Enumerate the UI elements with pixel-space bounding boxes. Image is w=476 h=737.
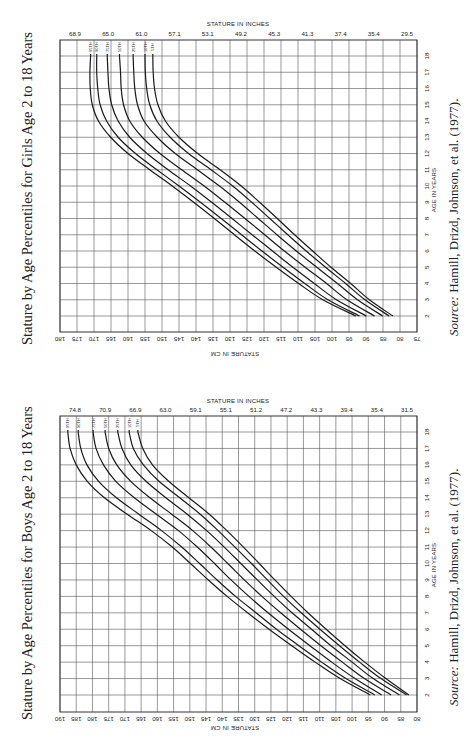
cm-tick-label: 120 <box>258 336 269 343</box>
cm-tick-label: 80 <box>413 716 420 723</box>
cm-tick-label: 170 <box>119 716 130 723</box>
cm-tick-label: 85 <box>379 336 386 343</box>
inch-tick-label: 41.3 <box>301 30 314 37</box>
cm-tick-label: 175 <box>103 716 114 723</box>
cm-tick-label: 110 <box>314 716 324 723</box>
boys-inch-ticks: 74.870.966.963.059.155.151.247.243.339.4… <box>69 406 414 413</box>
age-tick-label: 9 <box>423 200 430 204</box>
boys-bottom-axis-title: STATURE IN CM <box>211 725 259 731</box>
girls-stature-chart: STATURE IN INCHES 68.965.061.057.153.149… <box>54 21 437 357</box>
cm-tick-label: 105 <box>309 336 320 343</box>
inch-tick-label: 35.4 <box>368 30 381 37</box>
inch-tick-label: 65.0 <box>102 30 115 37</box>
inch-tick-label: 29.5 <box>401 30 414 37</box>
age-tick-label: 2 <box>423 693 430 697</box>
cm-tick-label: 140 <box>190 336 201 343</box>
percentile-label: 75TH <box>105 42 110 52</box>
cm-tick-label: 135 <box>233 716 244 723</box>
cm-tick-label: 150 <box>184 716 195 723</box>
percentile-label: 95TH <box>88 42 93 52</box>
age-tick-label: 9 <box>423 578 430 582</box>
inch-tick-label: 49.2 <box>235 30 248 37</box>
percentile-label: 5TH <box>150 43 155 51</box>
percentile-curve-75th <box>93 430 382 695</box>
age-tick-label: 11 <box>423 166 430 173</box>
cm-tick-label: 95 <box>345 336 352 343</box>
age-tick-label: 5 <box>423 265 430 269</box>
cm-tick-label: 125 <box>241 336 252 343</box>
girls-grid <box>60 40 417 332</box>
age-tick-label: 17 <box>423 444 430 451</box>
age-tick-label: 15 <box>423 477 430 484</box>
cm-tick-label: 160 <box>152 716 163 723</box>
cm-tick-label: 165 <box>105 336 116 343</box>
inch-tick-label: 39.4 <box>341 406 354 413</box>
age-tick-label: 14 <box>423 494 430 501</box>
cm-tick-label: 160 <box>122 336 133 343</box>
cm-tick-label: 90 <box>362 336 369 343</box>
cm-tick-label: 105 <box>330 716 341 723</box>
cm-tick-label: 75 <box>413 336 420 343</box>
cm-tick-label: 80 <box>396 336 403 343</box>
boys-age-axis-title: AGE IN YEARS <box>431 543 437 588</box>
age-tick-label: 4 <box>423 660 430 664</box>
age-tick-label: 3 <box>423 676 430 680</box>
age-tick-label: 7 <box>423 611 430 615</box>
girls-top-axis-title: STATURE IN INCHES <box>207 21 270 27</box>
age-tick-label: 5 <box>423 643 430 647</box>
cm-tick-label: 165 <box>135 716 146 723</box>
age-tick-label: 10 <box>423 560 430 567</box>
boys-top-axis-title: STATURE IN INCHES <box>207 398 270 404</box>
cm-tick-label: 90 <box>381 716 388 723</box>
inch-tick-label: 74.8 <box>69 406 82 413</box>
cm-tick-label: 145 <box>200 716 211 723</box>
cm-tick-label: 115 <box>298 716 308 723</box>
age-tick-label: 10 <box>423 182 430 189</box>
inch-tick-label: 70.9 <box>99 406 112 413</box>
age-tick-label: 13 <box>423 510 430 517</box>
inch-tick-label: 57.1 <box>169 30 182 37</box>
inch-tick-label: 35.4 <box>371 406 384 413</box>
cm-tick-label: 150 <box>156 336 167 343</box>
cm-tick-label: 130 <box>249 716 260 723</box>
percentile-curve-10th <box>145 54 389 316</box>
age-tick-label: 12 <box>423 527 430 534</box>
cm-tick-label: 100 <box>326 336 337 343</box>
cm-tick-label: 180 <box>54 336 65 343</box>
cm-tick-label: 125 <box>265 716 276 723</box>
cm-tick-label: 95 <box>364 716 371 723</box>
cm-tick-label: 130 <box>224 336 235 343</box>
cm-tick-label: 135 <box>207 336 218 343</box>
cm-tick-label: 155 <box>168 716 179 723</box>
inch-tick-label: 31.5 <box>401 406 414 413</box>
girls-cm-ticks: 1801751701651601551501451401351301251201… <box>54 336 420 343</box>
inch-tick-label: 43.3 <box>310 406 323 413</box>
cm-tick-label: 120 <box>281 716 292 723</box>
inch-tick-label: 63.0 <box>160 406 173 413</box>
age-tick-label: 15 <box>423 101 430 108</box>
age-tick-label: 18 <box>423 428 430 435</box>
percentile-label: 25TH <box>115 418 120 428</box>
age-tick-label: 6 <box>423 627 430 631</box>
age-tick-label: 12 <box>423 150 430 157</box>
percentile-label: 5TH <box>135 419 140 427</box>
cm-tick-label: 115 <box>276 336 286 343</box>
cm-tick-label: 175 <box>71 336 82 343</box>
girls-percentile-labels: 95TH90TH75TH50TH25TH10TH5TH <box>88 42 155 52</box>
age-tick-label: 6 <box>423 249 430 253</box>
cm-tick-label: 180 <box>87 716 98 723</box>
boys-percentile-labels: 95TH90TH75TH50TH25TH10TH5TH <box>65 418 140 428</box>
age-tick-label: 17 <box>423 68 430 75</box>
cm-tick-label: 145 <box>173 336 184 343</box>
percentile-label: 75TH <box>91 418 96 428</box>
inch-tick-label: 47.2 <box>280 406 293 413</box>
percentile-curve-10th <box>129 430 406 695</box>
inch-tick-label: 37.4 <box>335 30 348 37</box>
percentile-curve-95th <box>68 430 370 695</box>
percentile-curve-95th <box>90 54 356 316</box>
cm-tick-label: 140 <box>217 716 228 723</box>
percentile-label: 10TH <box>143 42 148 52</box>
inch-tick-label: 53.1 <box>202 30 215 37</box>
age-tick-label: 18 <box>423 52 430 59</box>
inch-tick-label: 68.9 <box>69 30 82 37</box>
